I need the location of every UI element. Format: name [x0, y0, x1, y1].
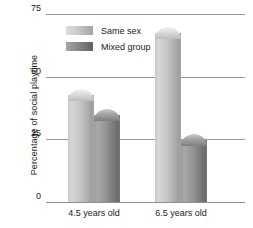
legend-label-same-sex: Same sex: [101, 26, 141, 36]
bar-body: [181, 140, 207, 202]
bar-cap: [94, 109, 120, 121]
gridline-50: [46, 77, 245, 78]
y-tick-label-50: 50: [0, 66, 41, 76]
bar-cap: [68, 89, 94, 101]
legend-label-mixed-group: Mixed group: [101, 42, 151, 52]
bar-same-sex-6-5: [155, 27, 181, 202]
x-label-group-1: 6.5 years old: [131, 208, 231, 218]
bar-body: [94, 115, 120, 202]
bar-body: [155, 33, 181, 202]
legend-item-mixed-group: Mixed group: [66, 40, 151, 53]
y-axis-title: Percentage of social playtime: [29, 20, 39, 210]
x-label-group-0: 4.5 years old: [44, 208, 144, 218]
legend-item-same-sex: Same sex: [66, 24, 151, 37]
y-tick-label-75: 75: [0, 3, 41, 13]
legend-swatch-same-sex: [66, 26, 93, 35]
bar-cap: [181, 134, 207, 146]
bar-body: [68, 95, 94, 202]
y-tick-label-25: 25: [0, 128, 41, 138]
y-tick-label-0: 0: [0, 191, 41, 201]
bar-same-sex-4-5: [68, 89, 94, 202]
gridline-75: [46, 14, 245, 15]
bar-mixed-group-4-5: [94, 109, 120, 202]
axis-baseline: [46, 202, 245, 203]
bar-mixed-group-6-5: [181, 134, 207, 202]
legend: Same sex Mixed group: [66, 24, 151, 56]
legend-swatch-mixed-group: [66, 42, 93, 51]
bar-chart: Percentage of social playtime 75 50 25 0: [0, 0, 253, 228]
bar-cap: [155, 27, 181, 39]
